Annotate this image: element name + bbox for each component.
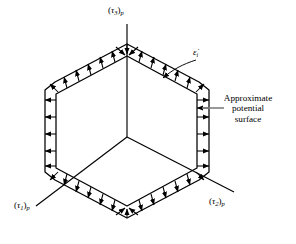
strain-rate-arrows-upper-left (64, 51, 115, 88)
approximate-potential-surface-callout: Approximate potential surface (204, 93, 292, 124)
axis-line-tau1 (36, 137, 127, 206)
strain-rate-arrows-upper-right (139, 51, 190, 88)
tau3-p-subscript: p (120, 9, 123, 16)
strain-rate-arrows-bottom-vertex (116, 208, 138, 217)
axis-label-tau2: (τ2)p (209, 196, 225, 207)
strain-rate-arrow-left-chamfer (50, 84, 58, 92)
callout-line-1: Approximate (204, 93, 292, 103)
axis-label-tau1: (τ1)p (14, 200, 30, 211)
strain-rate-arrow-right-chamfer (196, 84, 204, 92)
callout-line-2: potential (204, 103, 292, 113)
axis-label-tau3: (τ3)p (108, 5, 124, 16)
leader-strain-rate (163, 60, 196, 78)
tau1-p-subscript: p (26, 204, 29, 211)
strain-rate-arrows-top-vertex (116, 45, 138, 55)
axis-line-tau2 (127, 137, 234, 192)
tau2-p-subscript: p (221, 200, 224, 207)
callout-line-3: surface (204, 114, 292, 124)
strain-rate-arrows-lower-right (139, 174, 190, 211)
strain-rate-label: ε̇i (193, 47, 198, 58)
strain-rate-subscript: i (197, 52, 199, 58)
strain-rate-arrows-left-face (45, 100, 56, 166)
